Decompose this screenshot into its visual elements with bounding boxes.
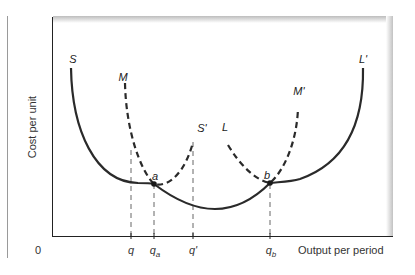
point-a-marker <box>151 181 157 187</box>
origin-label: 0 <box>35 244 41 256</box>
label-M: M <box>118 71 127 83</box>
label-L-prime: L' <box>359 53 367 65</box>
cost-curves-plot <box>0 0 415 275</box>
label-point-a: a <box>152 170 158 182</box>
label-S: S <box>69 53 76 65</box>
label-point-b: b <box>264 169 270 181</box>
tick-qa: qa <box>150 244 161 259</box>
label-M-prime: M' <box>293 85 304 97</box>
curve-M-S-prime <box>125 83 193 185</box>
point-b-marker <box>267 180 273 186</box>
tick-q-prime: q' <box>189 244 197 256</box>
curve-S-L-prime <box>71 68 363 209</box>
x-axis-label: Output per period <box>298 244 384 256</box>
y-axis-label: Cost per unit <box>26 96 38 158</box>
label-L: L <box>222 121 228 133</box>
label-S-prime: S' <box>197 122 206 134</box>
tick-qb: qb <box>266 244 277 259</box>
tick-q: q <box>128 244 134 256</box>
